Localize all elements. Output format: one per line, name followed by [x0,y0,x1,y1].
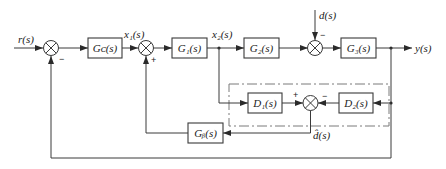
disturbance-label: d(s) [319,9,336,22]
block-g1-label: G₁(s) [178,42,202,55]
sum2-plus-sign: + [151,55,156,65]
block-diagram: r(s) − Gᴄ(s) x₁(s) + G₁(s) x₂(s) G₂(s) d… [0,0,446,169]
sum1-minus-sign: − [59,54,64,64]
sum-junction-1 [44,41,59,56]
sum4-plus-sign: + [293,90,298,100]
estimate-label: d̂(s) [313,129,330,142]
sum4-minus-sign: − [322,91,327,101]
x2-label: x₂(s) [211,28,233,41]
block-gc-label: Gᴄ(s) [93,42,118,55]
block-d2-label: D₂(s) [343,97,368,110]
x1-label: x₁(s) [123,28,145,41]
block-g3-label: G₃(s) [347,42,371,55]
output-label: y(s) [414,42,432,55]
sum-junction-2 [139,41,154,56]
sum-junction-3 [308,41,323,56]
block-d1-label: D₁(s) [252,97,277,110]
sum3-minus-sign: − [320,30,325,40]
block-g2-label: G₂(s) [250,42,274,55]
input-label: r(s) [18,33,34,46]
block-gb-label: Gᵦ(s) [194,127,217,140]
sum-junction-4 [303,96,318,111]
